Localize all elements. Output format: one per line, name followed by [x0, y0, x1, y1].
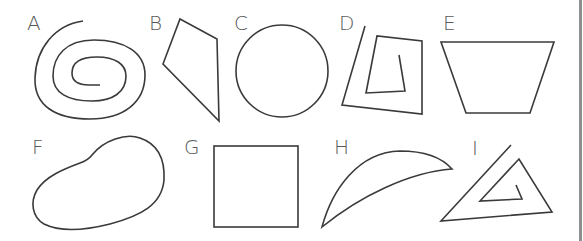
label-e: E: [443, 13, 456, 33]
shape-e-trapezoid: [441, 42, 554, 113]
shape-c-circle: [236, 25, 328, 117]
shape-d-spiral-quadrilateral: [342, 26, 422, 114]
label-a: A: [27, 13, 41, 33]
label-h: H: [334, 137, 349, 157]
label-i: I: [472, 138, 478, 158]
label-d: D: [339, 13, 354, 33]
shape-a-spiral: [35, 21, 145, 119]
label-g: G: [184, 137, 200, 157]
shapes-diagram: A B C D E F G H I: [0, 0, 583, 241]
shape-f-blob: [33, 136, 164, 229]
shape-b-quadrilateral: [163, 19, 219, 121]
right-edge-divider: [579, 0, 582, 241]
label-f: F: [32, 137, 44, 157]
shape-h-crescent: [322, 151, 452, 227]
label-c: C: [234, 13, 248, 33]
shape-g-square: [214, 146, 298, 227]
label-b: B: [149, 13, 162, 33]
shape-i-spiral-triangle: [441, 145, 552, 221]
